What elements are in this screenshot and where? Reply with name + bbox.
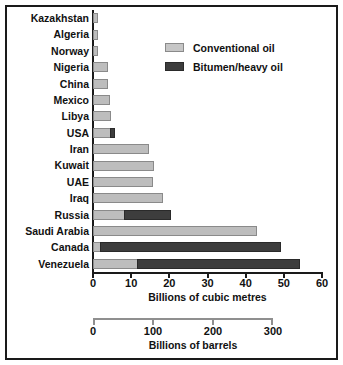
- stacked-bar: [93, 30, 98, 40]
- category-label: Saudi Arabia: [25, 223, 89, 239]
- category-label: Nigeria: [53, 59, 89, 75]
- bar-segment-bitumen: [137, 259, 300, 269]
- bar-row: UAE: [93, 174, 322, 190]
- bar-segment-conventional: [93, 161, 154, 171]
- bar-segment-conventional: [93, 13, 98, 23]
- secondary-x-tick-label: 0: [90, 325, 96, 337]
- bar-segment-conventional: [93, 79, 108, 89]
- stacked-bar: [93, 111, 111, 121]
- category-label: Norway: [51, 43, 89, 59]
- category-label: Venezuela: [38, 256, 89, 272]
- x-axis-title-barrels: Billions of barrels: [93, 339, 293, 351]
- stacked-bar: [93, 242, 281, 252]
- bar-row: Iran: [93, 141, 322, 157]
- stacked-bar: [93, 193, 163, 203]
- bar-segment-bitumen: [100, 242, 280, 252]
- x-tick-label: 30: [201, 277, 213, 289]
- secondary-axis-barrels: [93, 318, 273, 325]
- bar-row: Mexico: [93, 92, 322, 108]
- bar-segment-conventional: [93, 128, 111, 138]
- bar-segment-bitumen: [124, 210, 171, 220]
- bar-row: Libya: [93, 108, 322, 124]
- category-label: Algeria: [53, 26, 89, 42]
- stacked-bar: [93, 128, 115, 138]
- bar-segment-conventional: [93, 193, 163, 203]
- x-tick-label: 60: [316, 277, 328, 289]
- stacked-bar: [93, 95, 110, 105]
- stacked-bar: [93, 13, 98, 23]
- category-label: China: [60, 76, 89, 92]
- stacked-bar: [93, 161, 154, 171]
- bar-segment-conventional: [93, 46, 98, 56]
- category-label: Mexico: [53, 92, 89, 108]
- secondary-x-tick-mark: [152, 318, 154, 325]
- bar-row: Canada: [93, 239, 322, 255]
- category-label: Kazakhstan: [31, 10, 89, 26]
- light-gray-swatch: [165, 43, 184, 52]
- category-label: Iran: [70, 141, 89, 157]
- bar-segment-conventional: [93, 30, 98, 40]
- stacked-bar: [93, 177, 153, 187]
- legend-item: Conventional oil: [165, 40, 283, 55]
- bar-segment-conventional: [93, 95, 110, 105]
- category-label: Kuwait: [55, 157, 89, 173]
- bar-segment-bitumen: [110, 128, 115, 138]
- category-label: USA: [67, 125, 89, 141]
- x-tick-label: 0: [90, 277, 96, 289]
- chart-figure: KazakhstanAlgeriaNorwayNigeriaChinaMexic…: [0, 0, 343, 365]
- secondary-x-tick-mark: [212, 318, 214, 325]
- bar-row: Saudi Arabia: [93, 223, 322, 239]
- stacked-bar: [93, 226, 257, 236]
- bar-segment-conventional: [93, 177, 153, 187]
- bar-row: Iraq: [93, 190, 322, 206]
- bar-segment-conventional: [93, 226, 257, 236]
- secondary-x-tick-label: 200: [204, 325, 222, 337]
- bar-segment-conventional: [93, 62, 108, 72]
- category-label: Russia: [55, 207, 89, 223]
- legend-item: Bitumen/heavy oil: [165, 59, 283, 74]
- category-label: UAE: [67, 174, 89, 190]
- secondary-x-tick-label: 300: [264, 325, 282, 337]
- category-label: Libya: [62, 108, 89, 124]
- bar-row: Russia: [93, 207, 322, 223]
- category-label: Canada: [51, 239, 89, 255]
- bar-row: Kuwait: [93, 157, 322, 173]
- bar-segment-conventional: [93, 259, 138, 269]
- bar-segment-conventional: [93, 210, 125, 220]
- dark-gray-swatch: [165, 62, 184, 71]
- legend-label: Conventional oil: [193, 42, 275, 54]
- x-tick-label: 20: [163, 277, 175, 289]
- bar-segment-conventional: [93, 111, 111, 121]
- x-axis-title-metres: Billions of cubic metres: [93, 291, 322, 303]
- stacked-bar: [93, 259, 300, 269]
- bar-row: USA: [93, 125, 322, 141]
- x-tick-label: 40: [240, 277, 252, 289]
- chart-legend: Conventional oilBitumen/heavy oil: [165, 40, 283, 78]
- bar-row: Venezuela: [93, 256, 322, 272]
- bar-segment-conventional: [93, 144, 149, 154]
- x-tick-label: 50: [278, 277, 290, 289]
- stacked-bar: [93, 210, 171, 220]
- secondary-x-tick-label: 100: [144, 325, 162, 337]
- category-label: Iraq: [70, 190, 89, 206]
- bar-row: Kazakhstan: [93, 10, 322, 26]
- legend-label: Bitumen/heavy oil: [193, 61, 283, 73]
- stacked-bar: [93, 46, 98, 56]
- stacked-bar: [93, 62, 108, 72]
- x-tick-label: 10: [125, 277, 137, 289]
- stacked-bar: [93, 79, 108, 89]
- stacked-bar: [93, 144, 149, 154]
